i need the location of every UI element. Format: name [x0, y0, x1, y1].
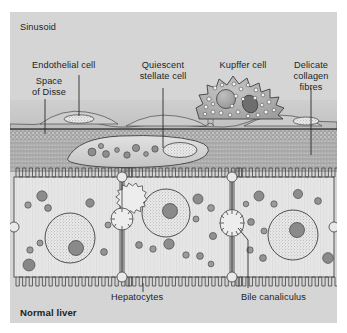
nucleolus	[69, 241, 84, 256]
label-quiescent-stellate-cell-line1: Quiescent	[131, 60, 195, 71]
label-collagen-line1: Delicate	[286, 60, 336, 71]
label-collagen-line3: fibres	[286, 82, 336, 93]
endothelial-nucleus	[64, 115, 94, 123]
label-sinusoid: Sinusoid	[20, 22, 56, 33]
bile-canaliculus	[220, 210, 245, 237]
nucleolus	[290, 223, 305, 238]
kupffer-cell	[196, 76, 284, 119]
stellate-nucleus	[163, 143, 197, 158]
label-quiescent-stellate-cell-line2: stellate cell	[126, 71, 200, 82]
label-space-of-disse-line1: Space	[22, 76, 76, 87]
label-hepatocytes: Hepatocytes	[111, 292, 163, 303]
label-endothelial-cell: Endothelial cell	[32, 60, 95, 71]
liver-diagram-artwork	[0, 0, 347, 333]
hepatocyte-plate	[9, 168, 345, 286]
label-bile-canaliculus: Bile canaliculus	[241, 292, 306, 303]
figure-caption: Normal liver	[20, 308, 77, 319]
hepatocyte-nucleus	[45, 213, 95, 263]
nucleolus	[163, 204, 178, 219]
bile-canaliculus	[111, 208, 133, 230]
liver-histology-figure: Sinusoid Endothelial cell Space of Disse…	[0, 0, 347, 333]
label-space-of-disse-line2: of Disse	[22, 87, 76, 98]
hepatocyte-microvilli	[16, 277, 342, 286]
label-collagen-line2: collagen	[286, 71, 336, 82]
label-kupffer-cell: Kupffer cell	[208, 60, 278, 71]
